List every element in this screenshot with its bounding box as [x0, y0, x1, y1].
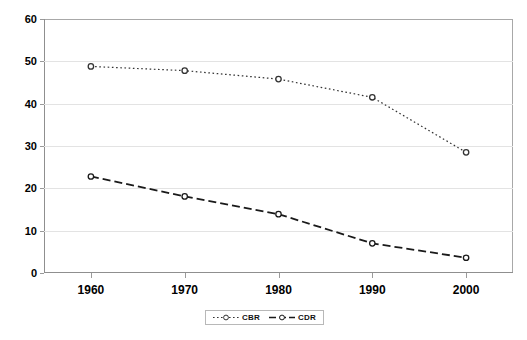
x-axis-tick-label: 1980: [265, 283, 292, 297]
x-axis-tick-label: 1970: [171, 283, 198, 297]
data-point-cdr-2000[interactable]: [463, 255, 468, 260]
data-point-cdr-1980[interactable]: [276, 211, 281, 216]
chart-title: [0, 0, 527, 5]
x-axis-tick: [91, 273, 92, 278]
chart-legend: CBR CDR: [205, 310, 324, 325]
y-axis-tick-label: 40: [25, 98, 37, 110]
series-cbr: [88, 64, 469, 155]
legend-item-cbr[interactable]: CBR: [213, 313, 260, 322]
x-axis-tick-label: 1960: [78, 283, 105, 297]
chart-container: 0102030405060 19601970198019902000 CBR C…: [0, 0, 527, 340]
y-axis-tick-label: 0: [31, 267, 37, 279]
plot-area: 0102030405060 19601970198019902000: [44, 19, 513, 273]
data-point-cbr-1960[interactable]: [88, 64, 93, 69]
data-point-cdr-1990[interactable]: [370, 241, 375, 246]
data-point-cdr-1970[interactable]: [182, 194, 187, 199]
y-axis-tick-label: 50: [25, 55, 37, 67]
legend-label-cbr: CBR: [242, 314, 260, 322]
y-axis-tick-label: 10: [25, 225, 37, 237]
legend-label-cdr: CDR: [298, 314, 316, 322]
x-axis-tick: [466, 273, 467, 278]
legend-swatch-cdr-icon: [269, 313, 295, 322]
x-axis-tick: [279, 273, 280, 278]
series-layer: [44, 19, 513, 273]
data-point-cbr-2000[interactable]: [463, 150, 468, 155]
x-axis-tick: [372, 273, 373, 278]
data-point-cdr-1960[interactable]: [88, 174, 93, 179]
series-cdr: [88, 174, 469, 261]
data-point-cbr-1980[interactable]: [276, 76, 281, 81]
data-point-cbr-1970[interactable]: [182, 68, 187, 73]
legend-item-cdr[interactable]: CDR: [269, 313, 316, 322]
x-axis-tick: [185, 273, 186, 278]
y-axis-tick-label: 30: [25, 140, 37, 152]
data-point-cbr-1990[interactable]: [370, 95, 375, 100]
x-axis-tick-label: 1990: [359, 283, 386, 297]
x-axis-tick-label: 2000: [453, 283, 480, 297]
legend-swatch-cbr-icon: [213, 313, 239, 322]
y-axis-tick-label: 20: [25, 182, 37, 194]
y-axis-tick-label: 60: [25, 13, 37, 25]
y-axis-tick: [40, 273, 44, 274]
